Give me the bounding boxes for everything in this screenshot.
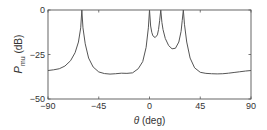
- x-tick-label: −45: [91, 101, 106, 111]
- x-axis-label: θ (deg): [134, 115, 166, 126]
- x-tick-label: 45: [195, 101, 205, 111]
- series-line: [48, 10, 251, 74]
- y-tick-label: −50: [30, 94, 45, 104]
- y-tick-label: 0: [40, 5, 45, 15]
- y-tick-label: −25: [30, 50, 45, 60]
- chart: −90−4504590 0−25−50 θ (deg) Pmu (dB): [0, 0, 267, 130]
- x-tick-label: 0: [147, 101, 152, 111]
- y-ticks: 0−25−50: [30, 5, 251, 104]
- axes-box: [48, 10, 251, 99]
- y-axis-label: Pmu (dB): [12, 35, 26, 74]
- plot-area: [48, 10, 251, 74]
- x-tick-label: 90: [246, 101, 256, 111]
